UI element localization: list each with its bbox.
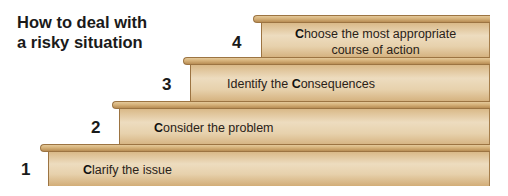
step-3-initial: C <box>292 77 301 91</box>
step-3-riser: Identify the Consequences <box>190 65 490 103</box>
step-4-label: Choose the most appropriate course of ac… <box>262 26 489 58</box>
step-3-text: onsequences <box>301 77 375 91</box>
step-number-2: 2 <box>91 118 100 138</box>
step-4-text-line2: course of action <box>262 42 489 58</box>
diagram-title: How to deal with a risky situation <box>17 12 147 52</box>
step-1-text: larify the issue <box>92 163 172 177</box>
step-4-initial: C <box>295 27 304 41</box>
step-4-tread <box>253 15 490 23</box>
step-1-riser: Clarify the issue <box>48 152 490 186</box>
step-2-tread <box>112 101 490 109</box>
step-4-text: hoose the most appropriate <box>304 27 456 41</box>
step-1-label: Clarify the issue <box>83 163 172 177</box>
step-1-initial: C <box>83 163 92 177</box>
step-4-riser: Choose the most appropriate course of ac… <box>261 23 490 59</box>
step-number-1: 1 <box>21 160 30 180</box>
step-3-label: Identify the Consequences <box>227 77 375 91</box>
step-3-prefix: Identify the <box>227 77 292 91</box>
step-number-3: 3 <box>162 75 171 95</box>
step-2-text: onsider the problem <box>163 121 273 135</box>
title-line-2: a risky situation <box>17 32 147 52</box>
step-1-tread <box>40 144 490 152</box>
step-2-riser: Consider the problem <box>119 109 490 147</box>
step-3-tread <box>183 57 490 65</box>
title-line-1: How to deal with <box>17 12 147 32</box>
step-2-label: Consider the problem <box>154 121 274 135</box>
step-number-4: 4 <box>232 33 241 53</box>
step-2-initial: C <box>154 121 163 135</box>
